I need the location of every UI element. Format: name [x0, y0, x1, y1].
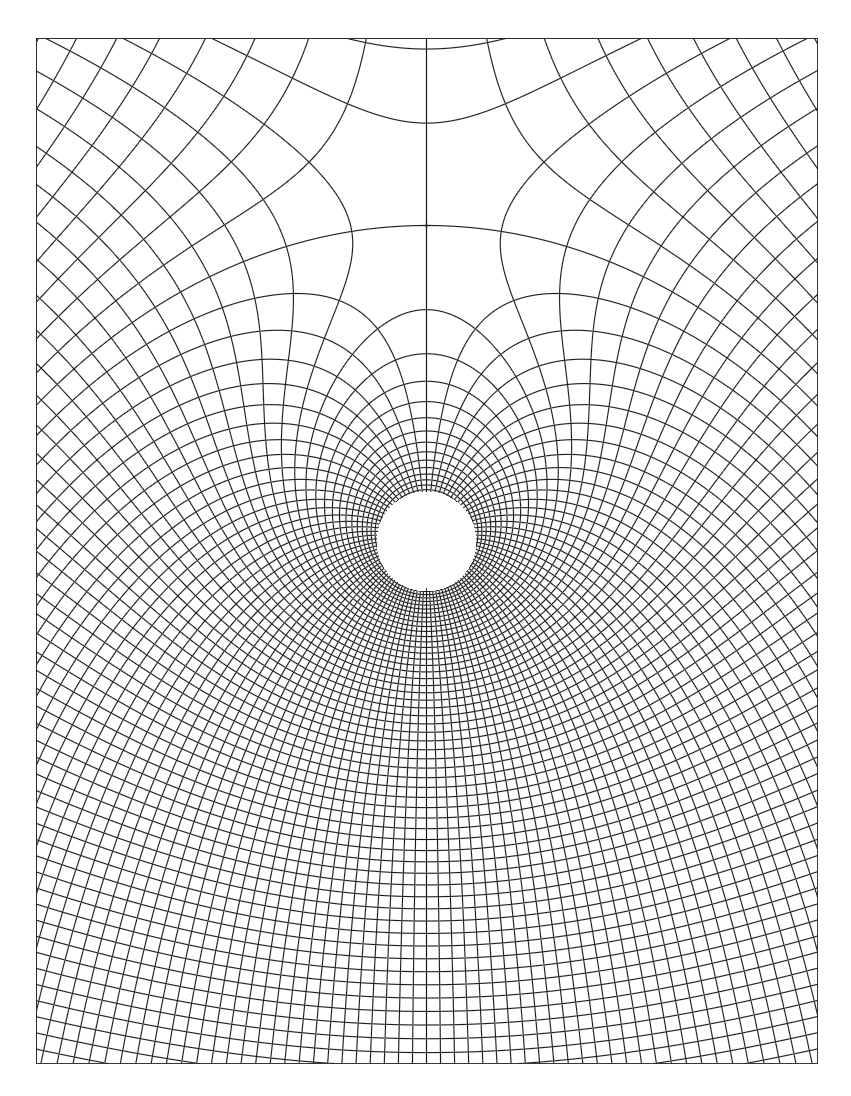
flow-net-figure — [0, 0, 851, 1096]
curvilinear-mesh — [0, 0, 851, 1096]
